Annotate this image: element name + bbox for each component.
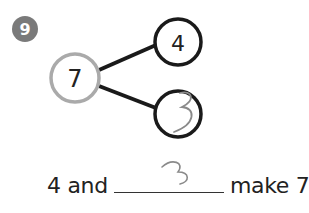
sentence-start: 4 and	[47, 173, 108, 198]
bond-line-bottom	[99, 86, 156, 108]
answer-blank[interactable]	[114, 178, 224, 193]
bond-line-top	[99, 45, 156, 70]
part-top-value: 4	[171, 31, 185, 56]
number-sentence: 4 andmake 7.	[47, 173, 309, 198]
whole-value: 7	[67, 65, 82, 93]
sentence-end: make 7.	[230, 173, 309, 198]
problem-number: 9	[19, 20, 30, 39]
